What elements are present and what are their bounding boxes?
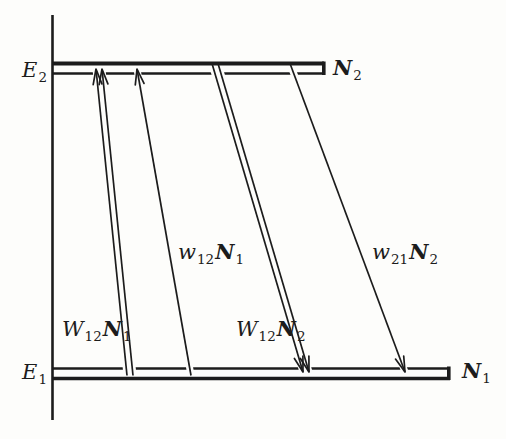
level-label-E1: E1 bbox=[21, 360, 47, 387]
population-label-N1: N1 bbox=[461, 358, 491, 386]
population-label-N2: N2 bbox=[332, 55, 362, 83]
energy-level-diagram: E2 E1 N2 N1 W12N1 w12N1 W12N2 w21N2 bbox=[0, 0, 506, 439]
level-bar-E2 bbox=[52, 62, 324, 76]
rate-label-W12N2: W12N2 bbox=[236, 316, 306, 344]
level-label-E2: E2 bbox=[21, 58, 47, 85]
rate-label-w21N2: w21N2 bbox=[372, 239, 438, 267]
rate-label-W12N1: W12N1 bbox=[62, 316, 132, 344]
level-bar-E1 bbox=[52, 367, 450, 381]
transition-arrow-spontaneous-decay bbox=[290, 64, 405, 373]
rate-label-w12N1: w12N1 bbox=[178, 239, 244, 267]
